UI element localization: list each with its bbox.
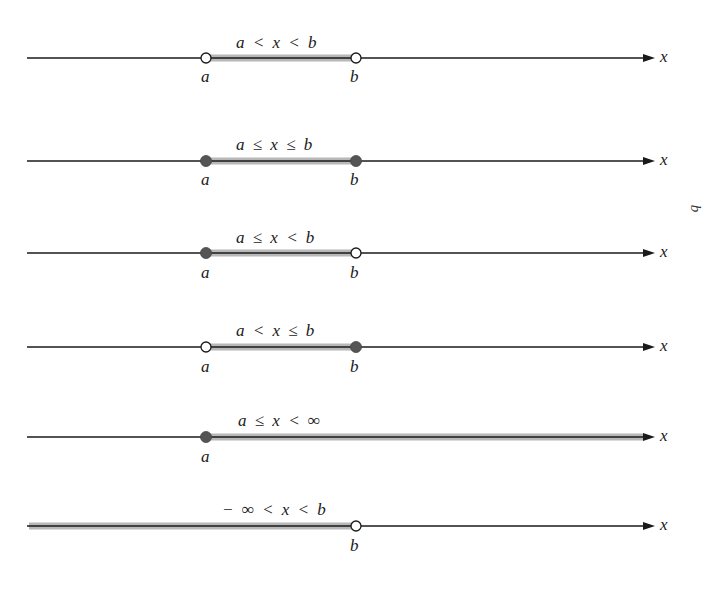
interval-diagram: a < x < b a b x a ≤ x ≤ b a b x a ≤ x < … xyxy=(0,0,721,589)
axis-label-x: x xyxy=(660,243,668,260)
axis-label-x: x xyxy=(660,48,668,65)
open-endpoint-icon xyxy=(201,342,211,352)
axis-label-x: x xyxy=(660,337,668,354)
closed-endpoint-icon xyxy=(351,156,362,167)
interval-notation-ray-right: a ≤ x < ∞ xyxy=(238,412,320,429)
endpoint-label-a: a xyxy=(201,171,210,188)
axis-label-x: x xyxy=(660,151,668,168)
endpoint-label-a: a xyxy=(201,68,210,85)
interval-notation-closed: a ≤ x ≤ b xyxy=(236,136,312,153)
arrowhead-icon xyxy=(643,343,655,351)
arrowhead-icon xyxy=(643,522,655,530)
number-lines-canvas xyxy=(0,0,721,589)
closed-endpoint-icon xyxy=(351,342,362,353)
axis-label-x: x xyxy=(660,516,668,533)
endpoint-label-b: b xyxy=(350,68,359,85)
endpoint-label-b: b xyxy=(350,537,359,554)
endpoint-label-a: a xyxy=(201,264,210,281)
open-endpoint-icon xyxy=(201,53,211,63)
arrowhead-icon xyxy=(643,157,655,165)
axis-label-x: x xyxy=(660,427,668,444)
arrowhead-icon xyxy=(643,433,655,441)
arrowhead-icon xyxy=(643,54,655,62)
closed-endpoint-icon xyxy=(201,156,212,167)
interval-notation-half-open-right: a ≤ x < b xyxy=(236,229,314,246)
arrowhead-icon xyxy=(643,249,655,257)
open-endpoint-icon xyxy=(351,248,361,258)
endpoint-label-b: b xyxy=(350,264,359,281)
interval-notation-ray-left: − ∞ < x < b xyxy=(222,501,326,518)
closed-endpoint-icon xyxy=(201,248,212,259)
endpoint-label-a: a xyxy=(201,358,210,375)
endpoint-label-a: a xyxy=(201,448,210,465)
interval-notation-open: a < x < b xyxy=(236,34,317,51)
endpoint-label-b: b xyxy=(350,358,359,375)
open-endpoint-icon xyxy=(351,521,361,531)
endpoint-label-b: b xyxy=(350,171,359,188)
open-endpoint-icon xyxy=(351,53,361,63)
interval-notation-half-open-left: a < x ≤ b xyxy=(236,322,314,339)
closed-endpoint-icon xyxy=(201,432,212,443)
side-margin-label-b: b xyxy=(687,205,704,213)
